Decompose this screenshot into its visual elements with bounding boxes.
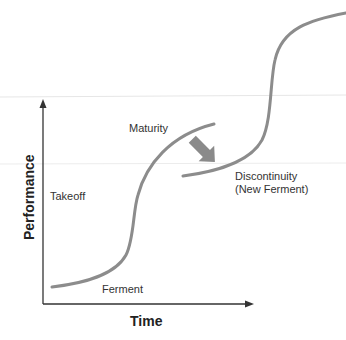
y-axis-title: Performance: [21, 154, 37, 240]
label-takeoff: Takeoff: [50, 190, 85, 202]
label-maturity: Maturity: [129, 122, 168, 134]
scan-artifact-line: [0, 95, 346, 97]
label-ferment: Ferment: [102, 283, 143, 295]
label-discontinuity: Discontinuity: [235, 170, 297, 182]
x-axis-arrowhead-icon: [245, 301, 254, 308]
scan-artifact-line: [0, 163, 346, 164]
x-axis: [43, 301, 254, 308]
x-axis-title: Time: [130, 313, 162, 329]
s-curve-current: [52, 124, 214, 287]
y-axis-arrowhead-icon: [40, 99, 47, 108]
label-new-ferment: (New Ferment): [235, 183, 308, 195]
y-axis: [40, 99, 47, 304]
s-curve-diagram: Maturity Takeoff Ferment Discontinuity (…: [0, 0, 346, 340]
